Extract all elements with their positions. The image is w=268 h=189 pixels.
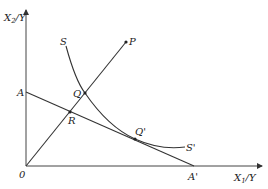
label-S-prime: S' <box>186 142 196 153</box>
label-R: R <box>67 115 76 126</box>
isoquant-curve-SS <box>66 46 185 148</box>
point-P-marker <box>124 40 127 43</box>
label-Q-prime: Q' <box>135 126 146 137</box>
point-Q-marker <box>83 91 86 94</box>
isoquant-diagram: X2/Y X1/Y 0 A A' P Q R Q' S S' <box>0 0 268 189</box>
label-A: A <box>16 87 24 98</box>
ray-0P <box>26 42 126 166</box>
y-axis-label: X2/Y <box>3 12 27 25</box>
origin-label: 0 <box>19 169 26 180</box>
label-Q: Q <box>73 88 81 99</box>
label-A-prime: A' <box>187 171 198 182</box>
label-S: S <box>60 36 67 47</box>
point-R-marker <box>68 110 71 113</box>
x-axis-label: X1/Y <box>233 172 257 185</box>
label-P: P <box>128 36 136 47</box>
isocost-line-AA <box>26 92 194 166</box>
point-Qprime-marker <box>133 137 136 140</box>
